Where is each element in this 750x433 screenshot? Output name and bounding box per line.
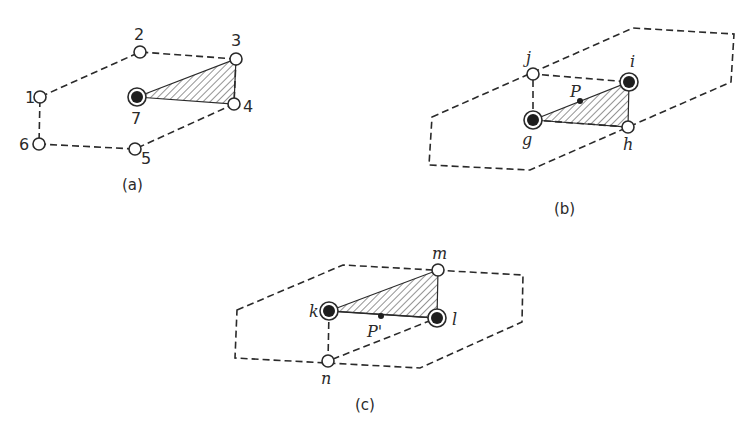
node-m <box>432 264 444 276</box>
node-i <box>620 73 638 91</box>
label-g: g <box>522 130 532 149</box>
label-6: 6 <box>19 135 29 154</box>
caption-c: (c) <box>355 396 375 414</box>
label-i: i <box>630 52 635 71</box>
node-l <box>428 309 446 327</box>
label-P: P <box>569 82 581 101</box>
node-6 <box>33 138 45 150</box>
panel-c: m k l n P' (c) <box>235 244 523 414</box>
label-k: k <box>309 302 319 321</box>
label-n: n <box>321 369 331 388</box>
hatched-triangle-b <box>533 82 629 127</box>
node-k <box>320 302 338 320</box>
label-3: 3 <box>231 31 241 50</box>
node-h <box>622 121 634 133</box>
node-4 <box>228 98 240 110</box>
caption-b: (b) <box>554 200 575 218</box>
point-P-prime <box>378 313 384 319</box>
label-5: 5 <box>141 149 151 168</box>
label-j: j <box>523 48 531 67</box>
label-1: 1 <box>25 88 35 107</box>
caption-a: (a) <box>122 176 143 194</box>
hatched-triangle-a <box>137 59 236 104</box>
node-1 <box>34 91 46 103</box>
panel-b: j i h g P (b) <box>429 28 734 218</box>
label-2: 2 <box>134 25 144 44</box>
label-P-prime: P' <box>366 322 382 341</box>
label-l: l <box>452 310 457 329</box>
diagram-canvas: 1 2 3 4 5 6 7 (a) j i h g P (b) <box>0 0 750 433</box>
node-2 <box>134 46 146 58</box>
label-4: 4 <box>243 97 253 116</box>
node-j <box>527 68 539 80</box>
hatched-triangle-c <box>329 270 438 318</box>
node-g <box>524 111 542 129</box>
panel-a: 1 2 3 4 5 6 7 (a) <box>19 25 253 194</box>
label-7: 7 <box>131 109 141 128</box>
node-5 <box>129 143 141 155</box>
node-7 <box>128 88 146 106</box>
node-n <box>322 355 334 367</box>
label-h: h <box>623 135 633 154</box>
label-m: m <box>432 244 447 263</box>
node-3 <box>230 53 242 65</box>
